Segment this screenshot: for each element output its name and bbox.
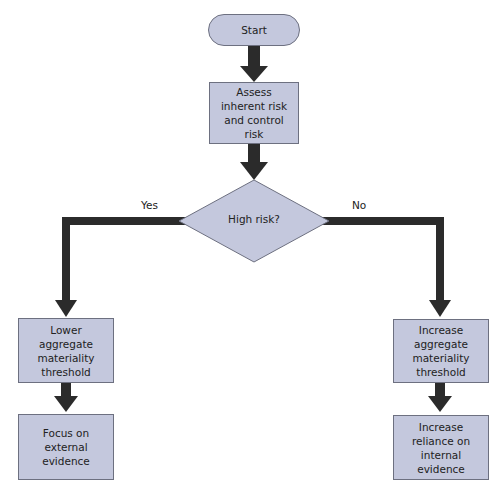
start-node: Start (208, 14, 300, 46)
internal-evidence-node: Increase reliance on internal evidence (393, 415, 489, 480)
external-evidence-node: Focus on external evidence (18, 414, 114, 480)
assess-risk-node: Assess inherent risk and control risk (209, 82, 299, 144)
external-evidence-label: Focus on external evidence (23, 426, 109, 468)
start-label: Start (241, 23, 267, 37)
lower-threshold-label: Lower aggregate materiality threshold (23, 323, 109, 379)
yes-label: Yes (141, 199, 158, 211)
decision-label: High risk? (204, 213, 304, 225)
increase-threshold-node: Increase aggregate materiality threshold (393, 319, 489, 383)
increase-threshold-label: Increase aggregate materiality threshold (398, 323, 484, 379)
internal-evidence-label: Increase reliance on internal evidence (398, 420, 484, 476)
assess-risk-label: Assess inherent risk and control risk (214, 85, 294, 141)
lower-threshold-node: Lower aggregate materiality threshold (18, 318, 114, 383)
no-label: No (352, 199, 366, 211)
